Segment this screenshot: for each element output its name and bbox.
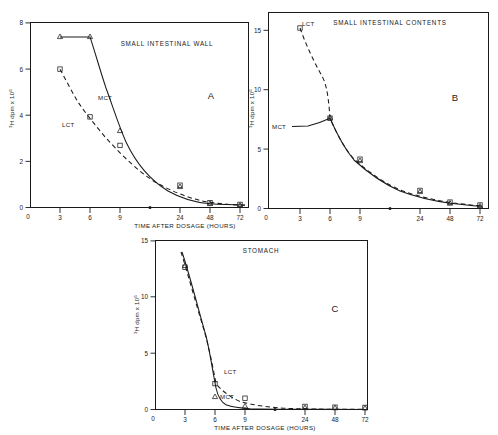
panel-a-ytick-2: 2 bbox=[19, 158, 23, 165]
panel-c-label-lct: LCT bbox=[224, 368, 236, 375]
svg-text:3H dpm x 106: 3H dpm x 106 bbox=[248, 89, 255, 128]
panel-a-xtick-3: 3 bbox=[58, 214, 62, 221]
panel-c-xtick-6: 6 bbox=[213, 416, 217, 423]
panel-b-title: SMALL INTESTINAL CONTENTS bbox=[333, 19, 446, 26]
panel-a-ytick-8: 8 bbox=[19, 19, 23, 26]
panel-b-xtick-0: 0 bbox=[264, 214, 268, 221]
panel-c-ytick-15: 15 bbox=[141, 237, 149, 244]
svg-text:3H dpm x 106: 3H dpm x 106 bbox=[8, 89, 15, 128]
panel-a-markers-lct bbox=[58, 67, 242, 207]
panel-a-ytick-6: 6 bbox=[19, 66, 23, 73]
panel-c-ytick-0: 0 bbox=[144, 406, 148, 413]
panel-b-y-axis-title: 3H dpm x 106 bbox=[248, 89, 255, 128]
panel-a-xtick-6: 6 bbox=[88, 214, 92, 221]
panel-a-xtick-0: 0 bbox=[26, 213, 30, 220]
panel-a-title: SMALL INTESTINAL WALL bbox=[121, 40, 214, 47]
panel-b-markers-mct bbox=[327, 115, 482, 208]
panel-b-ytick-5: 5 bbox=[257, 146, 261, 153]
panel-b-xtick-6: 6 bbox=[328, 215, 332, 222]
panel-c-x-axis-title: TIME AFTER DOSAGE (HOURS) bbox=[214, 424, 316, 431]
panel-a-xtick-9: 9 bbox=[118, 214, 122, 221]
panel-c-xtick-3: 3 bbox=[183, 416, 187, 423]
panel-b-label-lct: LCT bbox=[302, 20, 314, 27]
panel-b-small-intestinal-contents: 0 5 10 15 3H dpm x 106 0 3 6 9 24 48 72 … bbox=[250, 0, 498, 232]
panel-c-xtick-0: 0 bbox=[151, 415, 155, 422]
panel-b-xtick-24: 24 bbox=[416, 215, 424, 222]
panel-c-label-mct: MCT bbox=[220, 393, 234, 400]
panel-c-ytick-5: 5 bbox=[144, 350, 148, 357]
panel-c-xtick-48: 48 bbox=[331, 416, 339, 423]
panel-b-markers-lct bbox=[298, 26, 482, 207]
panel-c-xtick-9: 9 bbox=[243, 416, 247, 423]
panel-a-y-axis-title: 3H dpm x 106 bbox=[8, 89, 15, 128]
panel-c-xtick-24: 24 bbox=[301, 416, 309, 423]
panel-a-letter: A bbox=[208, 90, 215, 101]
panel-b-y-axis: 0 5 10 15 bbox=[254, 27, 269, 212]
panel-b-label-mct: MCT bbox=[272, 123, 286, 130]
panel-b-xtick-48: 48 bbox=[446, 215, 454, 222]
panel-a-plot-frame bbox=[31, 23, 249, 208]
panel-b-x-axis: 0 3 6 9 24 48 72 bbox=[264, 207, 484, 222]
panel-b-xtick-3: 3 bbox=[298, 215, 302, 222]
panel-b-ytick-0: 0 bbox=[257, 205, 261, 212]
panel-b-ytick-15: 15 bbox=[254, 27, 262, 34]
panel-a-xtick-24: 24 bbox=[176, 214, 184, 221]
panel-a-markers-mct bbox=[57, 34, 242, 207]
panel-b-curve-mct bbox=[292, 118, 482, 206]
panel-b-xtick-9: 9 bbox=[358, 215, 362, 222]
panel-c-curve-mct bbox=[182, 252, 365, 409]
panel-b-ytick-10: 10 bbox=[254, 86, 262, 93]
panel-b-letter: B bbox=[452, 92, 458, 103]
panel-c-markers-mct bbox=[182, 263, 367, 410]
panel-c-markers-lct bbox=[183, 265, 367, 410]
panel-c-ytick-10: 10 bbox=[141, 293, 149, 300]
panel-c-stomach: 0 5 10 15 3H dpm x 106 0 3 6 9 24 48 72 … bbox=[120, 228, 380, 435]
panel-c-curve-lct bbox=[181, 252, 365, 409]
panel-a-xtick-48: 48 bbox=[206, 214, 214, 221]
panel-c-letter: C bbox=[332, 303, 339, 314]
panel-c-y-axis-title: 3H dpm x 106 bbox=[133, 295, 140, 334]
panel-a-label-mct: MCT bbox=[98, 94, 112, 101]
panel-a-label-lct: LCT bbox=[62, 121, 74, 128]
panel-a-xtick-72: 72 bbox=[236, 214, 244, 221]
panel-c-xtick-72: 72 bbox=[361, 416, 369, 423]
panel-a-small-intestinal-wall: 0 2 4 6 8 3H dpm x 106 0 3 6 9 24 48 72 … bbox=[0, 0, 262, 232]
panel-a-y-axis: 0 2 4 6 8 bbox=[19, 19, 30, 211]
panel-c-y-axis: 0 5 10 15 bbox=[141, 237, 156, 413]
panel-a-curve-mct bbox=[60, 37, 245, 205]
panel-a-x-axis: 0 3 6 9 24 48 72 bbox=[26, 206, 244, 221]
panel-b-xtick-72: 72 bbox=[476, 215, 484, 222]
panel-a-curve-lct bbox=[60, 69, 245, 205]
panel-c-x-axis: 0 3 6 9 24 48 72 bbox=[151, 408, 369, 423]
panel-b-curve-lct bbox=[300, 28, 482, 206]
svg-text:3H dpm x 106: 3H dpm x 106 bbox=[133, 295, 140, 334]
panel-c-title: STOMACH bbox=[243, 247, 280, 254]
panel-a-ytick-4: 4 bbox=[19, 112, 23, 119]
panel-a-ytick-0: 0 bbox=[19, 204, 23, 211]
